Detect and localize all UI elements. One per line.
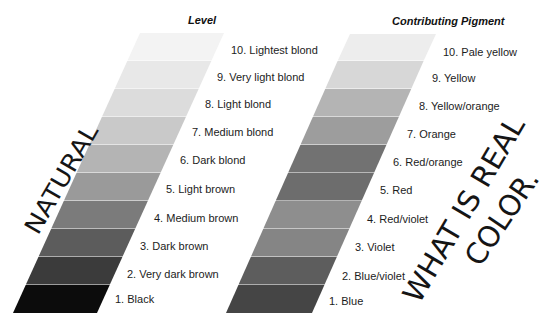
- pigment-label-5: 5. Red: [380, 184, 412, 196]
- level-label-3: 3. Dark brown: [140, 240, 208, 252]
- pigment-label-2: 2. Blue/violet: [342, 270, 405, 282]
- level-band-10: [128, 33, 225, 61]
- pigment-band-9: [325, 61, 423, 89]
- pigment-band-1: [226, 285, 324, 313]
- level-label-1: 1. Black: [115, 293, 154, 305]
- pigment-band-6: [288, 145, 386, 173]
- pigment-label-9: 9. Yellow: [432, 72, 475, 84]
- pigment-band-8: [313, 89, 411, 117]
- pigment-label-1: 1. Blue: [329, 295, 363, 307]
- level-band-3: [39, 229, 136, 257]
- level-band-4: [51, 201, 148, 229]
- pigment-label-10: 10. Pale yellow: [443, 46, 517, 58]
- level-label-8: 8. Light blond: [205, 98, 271, 110]
- pigment-band-2: [239, 257, 337, 285]
- pigment-band-3: [251, 229, 349, 257]
- level-band-9: [115, 61, 212, 89]
- pigment-label-3: 3. Violet: [355, 241, 395, 253]
- level-label-4: 4. Medium brown: [154, 212, 238, 224]
- pigment-band-10: [338, 34, 436, 61]
- level-band-2: [26, 257, 123, 285]
- pigment-label-6: 6. Red/orange: [393, 156, 463, 168]
- level-label-9: 9. Very light blond: [217, 71, 304, 83]
- level-label-10: 10. Lightest blond: [231, 44, 318, 56]
- level-label-2: 2. Very dark brown: [127, 268, 219, 280]
- level-band-7: [89, 117, 185, 145]
- level-label-5: 5. Light brown: [166, 183, 235, 195]
- pigment-band-4: [263, 201, 361, 229]
- level-band-8: [102, 89, 199, 117]
- level-label-6: 6. Dark blond: [180, 154, 245, 166]
- pigment-band-5: [276, 173, 374, 201]
- level-label-7: 7. Medium blond: [192, 126, 273, 138]
- pigment-label-8: 8. Yellow/orange: [419, 100, 500, 112]
- level-band-1: [13, 285, 110, 313]
- pigment-label-7: 7. Orange: [407, 128, 456, 140]
- pigment-header: Contributing Pigment: [392, 15, 504, 27]
- level-header: Level: [188, 14, 216, 26]
- pigment-label-4: 4. Red/violet: [367, 213, 428, 225]
- pigment-band-7: [301, 117, 399, 145]
